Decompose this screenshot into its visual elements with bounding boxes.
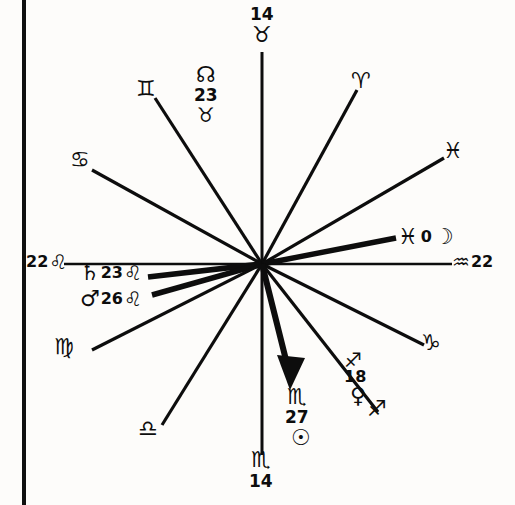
placement-mars: ♂ 26 ♌ <box>80 288 142 310</box>
leo-icon: ♌ <box>49 252 67 272</box>
sun-icon: ☉ <box>291 427 311 449</box>
mars-degree: 26 <box>101 291 123 307</box>
placement-venus: ♐ 18 ♀ <box>344 350 366 407</box>
spoke-capricorn <box>262 264 424 345</box>
capricorn-icon: ♑ <box>421 332 441 354</box>
saturn-degree: 23 <box>101 265 123 281</box>
axis-label-top: 14 ♉ <box>250 6 274 46</box>
north-node-icon: ☊ <box>196 64 216 86</box>
north-node-degree: 23 <box>194 87 218 104</box>
cancer-icon: ♋ <box>70 149 90 171</box>
libra-icon: ♎ <box>138 418 158 440</box>
saturn-icon: ♄ <box>80 262 100 284</box>
moon-icon: ☽ <box>434 226 454 248</box>
saturn-sign-leo-icon: ♌ <box>124 263 142 283</box>
astrology-chart: 14 ♉ ♏ 14 22 ♌ ♒ 22 ♊ ♋ ♍ ♎ ♈ ♓ ♑ ♐ ☊ 23… <box>0 0 515 505</box>
mars-icon: ♂ <box>80 288 100 310</box>
sun-degree: 27 <box>285 409 309 426</box>
placement-moon: ♓ 0 ☽ <box>398 226 454 248</box>
taurus-icon: ♉ <box>252 24 272 46</box>
scorpio-icon: ♏ <box>251 449 271 471</box>
right-degree: 22 <box>471 254 493 270</box>
aries-icon: ♈ <box>351 70 371 92</box>
virgo-icon: ♍ <box>54 336 74 358</box>
axis-label-bottom: ♏ 14 <box>249 449 273 490</box>
gemini-icon: ♊ <box>136 78 156 100</box>
moon-sign-pisces-icon: ♓ <box>398 226 418 248</box>
pisces-cusp-icon: ♓ <box>443 140 463 162</box>
spoke-cancer <box>92 170 262 264</box>
left-degree: 22 <box>26 254 48 270</box>
placement-north-node: ☊ 23 ♉ <box>194 64 218 125</box>
venus-icon: ♀ <box>350 385 366 407</box>
mars-sign-leo-icon: ♌ <box>124 289 142 309</box>
top-degree: 14 <box>250 6 274 23</box>
moon-degree: 0 <box>421 229 432 245</box>
spoke-lines-group <box>0 0 515 505</box>
north-node-sign-taurus-icon: ♉ <box>197 105 215 125</box>
bottom-degree: 14 <box>249 473 273 490</box>
placement-sun: ♏ 27 ☉ <box>283 386 311 449</box>
aquarius-icon: ♒ <box>452 252 470 272</box>
axis-label-right: ♒ 22 <box>452 252 493 272</box>
sagittarius-cusp-icon: ♐ <box>367 398 387 420</box>
placement-saturn: ♄ 23 ♌ <box>80 262 142 284</box>
axis-label-left: 22 ♌ <box>26 252 67 272</box>
sun-sign-scorpio-icon: ♏ <box>287 386 307 408</box>
